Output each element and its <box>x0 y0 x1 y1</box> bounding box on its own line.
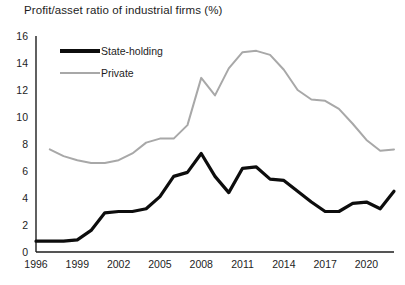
chart-legend: State-holding Private <box>60 40 163 84</box>
y-axis-tick-label: 4 <box>4 192 28 204</box>
chart-line-state-holding <box>36 153 394 241</box>
chart-root: Profit/asset ratio of industrial firms (… <box>0 0 405 285</box>
x-axis-tick-label: 1996 <box>24 258 47 270</box>
x-axis-tick-label: 2017 <box>313 258 336 270</box>
y-axis-tick-label: 0 <box>4 246 28 258</box>
x-axis-tick-label: 2005 <box>148 258 171 270</box>
legend-swatch-private-icon <box>60 72 100 74</box>
y-axis-tick-label: 14 <box>4 57 28 69</box>
y-axis-tick-label: 10 <box>4 111 28 123</box>
legend-label-state-holding: State-holding <box>101 45 163 57</box>
legend-item-state-holding: State-holding <box>60 40 163 62</box>
y-axis-tick-label: 8 <box>4 138 28 150</box>
legend-label-private: Private <box>101 67 134 79</box>
y-axis-tick-label: 12 <box>4 84 28 96</box>
y-axis-tick-label: 6 <box>4 165 28 177</box>
x-axis-tick-label: 1999 <box>66 258 89 270</box>
legend-swatch-state-holding-icon <box>60 49 100 53</box>
x-axis-tick-label: 2014 <box>272 258 295 270</box>
x-axis-tick-label: 2008 <box>190 258 213 270</box>
y-axis-tick-label: 2 <box>4 219 28 231</box>
x-axis-tick-label: 2011 <box>231 258 254 270</box>
x-axis-tick-label: 2020 <box>355 258 378 270</box>
y-axis-tick-label: 16 <box>4 30 28 42</box>
legend-item-private: Private <box>60 62 163 84</box>
x-axis-tick-label: 2002 <box>107 258 130 270</box>
